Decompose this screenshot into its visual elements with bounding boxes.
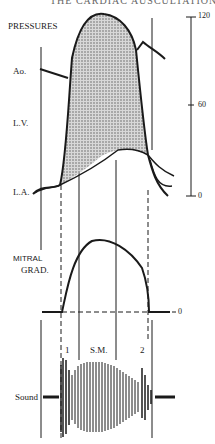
scale-tick-120: 120 xyxy=(198,12,210,20)
mitral-gradient-title-line1: MITRAL xyxy=(13,255,42,263)
aortic-pressure-curve xyxy=(40,69,68,78)
cardiac-cycle-diagram xyxy=(0,0,215,444)
left-ventricle-label: L.V. xyxy=(13,119,28,128)
scale-tick-60: 60 xyxy=(198,101,206,109)
gradient-zero-label: 0 xyxy=(178,308,182,316)
mitral-gradient-title-line2: GRAD. xyxy=(21,266,49,275)
left-atrium-label: L.A. xyxy=(13,188,30,197)
first-heart-sound-label: 1 xyxy=(65,346,70,355)
sound-label: Sound xyxy=(15,393,38,402)
aorta-label: Ao. xyxy=(13,67,26,76)
systolic-murmur-label: S.M. xyxy=(90,346,108,355)
aortic-dicrotic-curve xyxy=(137,42,165,59)
sound-trace xyxy=(43,358,175,437)
pressure-scale xyxy=(186,17,196,196)
pressures-title: PRESSURES xyxy=(8,22,58,31)
second-heart-sound-label: 2 xyxy=(140,346,145,355)
scale-tick-0: 0 xyxy=(198,192,202,200)
